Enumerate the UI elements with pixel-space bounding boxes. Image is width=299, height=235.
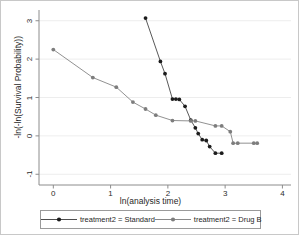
x-axis-title: ln(analysis time) xyxy=(1,197,299,206)
data-point xyxy=(189,119,193,123)
data-point xyxy=(174,97,178,101)
data-point xyxy=(220,124,224,128)
data-point xyxy=(114,85,118,89)
chart-legend: treatment2 = Standard treatment2 = Drug … xyxy=(40,210,261,229)
data-point xyxy=(231,141,235,145)
y-tick-label: 1 xyxy=(26,93,34,103)
legend-label-standard: treatment2 = Standard xyxy=(80,216,155,224)
data-point xyxy=(196,132,200,136)
data-point xyxy=(204,139,208,143)
x-tick-label: 2 xyxy=(166,190,170,198)
x-tick-label: 0 xyxy=(51,190,55,198)
data-point xyxy=(214,151,218,155)
data-point xyxy=(183,104,187,108)
data-point xyxy=(159,60,163,64)
survival-loglog-chart: ln(analysis time) -ln(-ln(Survival Proba… xyxy=(0,0,299,235)
legend-key-standard xyxy=(41,215,77,224)
data-point xyxy=(131,100,135,104)
data-point xyxy=(91,76,95,80)
y-tick-label: 2 xyxy=(26,54,34,64)
data-point xyxy=(171,119,175,123)
plot-area xyxy=(39,10,291,185)
series-line-0 xyxy=(146,18,222,153)
y-tick-label: -1 xyxy=(26,169,34,179)
y-axis-title: -ln(-ln(Survival Probability)) xyxy=(14,12,23,162)
data-point xyxy=(228,130,232,134)
y-tick-label: 0 xyxy=(26,131,34,141)
data-point xyxy=(177,98,181,102)
data-point xyxy=(255,141,259,145)
legend-label-drug-b: treatment2 = Drug B xyxy=(194,216,262,224)
data-point xyxy=(252,141,256,145)
data-point xyxy=(154,113,158,117)
legend-key-drug-b xyxy=(155,215,191,224)
data-point xyxy=(208,145,212,149)
data-point xyxy=(144,16,148,20)
x-tick-label: 1 xyxy=(108,190,112,198)
series-line-1 xyxy=(53,50,257,144)
plot-svg xyxy=(39,10,291,185)
legend-item-drug-b[interactable]: treatment2 = Drug B xyxy=(155,215,262,224)
legend-item-standard[interactable]: treatment2 = Standard xyxy=(41,215,155,224)
data-point xyxy=(236,141,240,145)
data-point xyxy=(163,72,167,76)
data-point xyxy=(171,97,175,101)
data-point xyxy=(200,138,204,142)
data-point xyxy=(220,151,224,155)
x-tick-label: 4 xyxy=(280,190,284,198)
x-tick-label: 3 xyxy=(223,190,227,198)
data-point xyxy=(193,119,197,123)
data-point xyxy=(214,124,218,128)
y-tick-label: 3 xyxy=(26,16,34,26)
data-point xyxy=(144,107,148,111)
data-point xyxy=(193,126,197,130)
data-point xyxy=(51,48,55,52)
